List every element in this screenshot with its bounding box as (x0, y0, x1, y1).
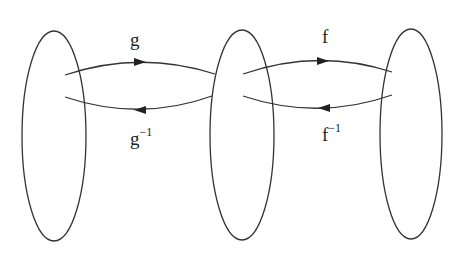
label-g-text: g (130, 29, 140, 50)
arrow-f-inverse-path (243, 95, 392, 108)
label-g-inverse-text: g (130, 128, 140, 149)
label-f-inverse-superscript: −1 (328, 121, 341, 135)
set-2-ellipse (210, 30, 274, 240)
arrowhead-f-inverse-icon (318, 104, 330, 112)
label-g: g (130, 30, 140, 49)
label-f: f (322, 27, 328, 46)
arrowhead-g-icon (134, 58, 146, 66)
label-f-text: f (322, 26, 328, 47)
arrow-g-inverse-path (65, 96, 212, 109)
mapping-diagram: g g−1 f f−1 (0, 0, 468, 273)
label-g-inverse: g−1 (130, 128, 152, 148)
arrowhead-f-icon (317, 57, 329, 65)
set-1-ellipse (22, 31, 86, 241)
label-g-inverse-superscript: −1 (140, 125, 153, 139)
arrow-g-path (65, 62, 215, 75)
set-3-ellipse (380, 29, 442, 239)
arrowhead-g-inverse-icon (134, 106, 146, 114)
label-f-inverse: f−1 (322, 124, 341, 144)
diagram-svg (0, 0, 468, 273)
